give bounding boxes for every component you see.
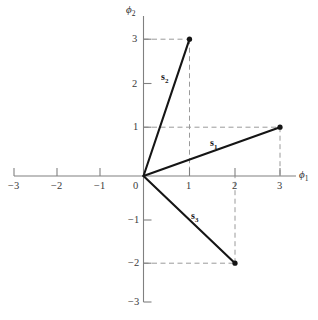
x-tick-label-pos1: 1 — [186, 181, 191, 192]
y-axis-title-sub: 2 — [132, 9, 136, 18]
vector-plot-figure: −3 −2 −1 0 1 2 3 3 2 1 −1 −2 −3 ϕ1 ϕ2 s1… — [0, 0, 318, 320]
origin-label: 0 — [133, 181, 138, 192]
vector-endpoint-s1 — [277, 125, 282, 130]
vector-label-s3: s3 — [191, 211, 198, 224]
vector-endpoint-s3 — [232, 261, 237, 266]
x-axis-title: ϕ1 — [299, 169, 308, 183]
vector-label-s1: s1 — [210, 138, 217, 151]
x-tick-label-neg1: −1 — [94, 181, 105, 192]
vector-label-s1-sub: 1 — [214, 143, 218, 151]
x-tick-label-neg3: −3 — [8, 181, 19, 192]
x-tick-label-pos2: 2 — [232, 181, 237, 192]
vector-s1 — [144, 127, 281, 176]
y-axis-title: ϕ2 — [126, 4, 135, 18]
y-tick-label-neg3: −3 — [128, 297, 139, 308]
x-tick-label-pos3: 3 — [277, 181, 282, 192]
vector-label-s2-sub: 2 — [165, 77, 169, 85]
y-tick-label-pos1: 1 — [133, 122, 138, 133]
x-tick-label-neg2: −2 — [51, 181, 62, 192]
x-axis-title-sub: 1 — [305, 174, 309, 183]
vector-label-s3-sub: 3 — [195, 216, 199, 224]
vector-endpoint-s2 — [187, 37, 192, 42]
axes — [14, 16, 296, 302]
y-tick-label-pos2: 2 — [132, 79, 137, 90]
y-tick-label-neg2: −2 — [128, 258, 139, 269]
vector-s2 — [144, 39, 190, 176]
y-tick-label-neg1: −1 — [128, 215, 139, 226]
vector-label-s2: s2 — [161, 72, 168, 85]
y-tick-label-pos3: 3 — [132, 34, 137, 45]
plot-canvas — [0, 0, 318, 320]
